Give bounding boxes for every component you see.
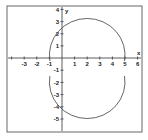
- y-tick-labels: 4 3 2 1 -1 -2 -3 -4 -5: [54, 7, 60, 123]
- y-tick-label: -5: [54, 116, 60, 122]
- y-tick-label: -1: [54, 67, 60, 73]
- x-tick-label: 5: [123, 61, 127, 67]
- x-tick-label: 4: [111, 61, 115, 67]
- y-tick-label: -3: [54, 92, 60, 98]
- x-axis: [8, 57, 141, 60]
- chart-frame: [7, 6, 142, 132]
- y-tick-label: -2: [54, 80, 60, 86]
- y-tick-label: -4: [54, 104, 60, 110]
- x-tick-label: 1: [73, 61, 77, 67]
- x-tick-label: 2: [86, 61, 90, 67]
- y-axis-label: y: [65, 8, 69, 14]
- y-tick-label: 3: [56, 19, 60, 25]
- chart: -3 -2 -1 1 2 3 4 5 6 x 4 3 2 1 -1 -2 -3 …: [0, 0, 148, 140]
- x-tick-label: 6: [136, 61, 140, 67]
- y-axis: [61, 7, 64, 131]
- x-axis-label: x: [137, 50, 141, 56]
- x-tick-label: -2: [34, 61, 40, 67]
- x-tick-label: 3: [98, 61, 102, 67]
- x-tick-labels: -3 -2 -1 1 2 3 4 5 6: [22, 61, 140, 67]
- x-tick-label: -1: [47, 61, 53, 67]
- x-tick-label: -3: [22, 61, 28, 67]
- y-tick-label: 1: [56, 43, 60, 49]
- y-tick-label: 4: [56, 7, 60, 13]
